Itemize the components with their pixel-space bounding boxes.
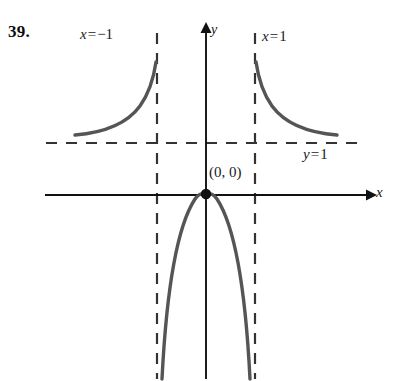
math-figure: 39. x=−1 x=1 y=1 y x (0, 0)	[0, 0, 403, 381]
vertical-asymptote-left-value: −1	[97, 26, 113, 42]
origin-point-marker	[201, 189, 211, 199]
graph-canvas	[0, 0, 403, 381]
horizontal-asymptote-operator: =	[310, 146, 320, 162]
vertical-asymptote-left-variable: x	[80, 26, 87, 42]
y-axis-label: y	[211, 22, 217, 38]
vertical-asymptote-left-label: x=−1	[80, 26, 113, 43]
x-axis-label: x	[376, 184, 383, 201]
vertical-asymptote-right-label: x=1	[262, 28, 287, 45]
horizontal-asymptote-value: 1	[320, 146, 328, 162]
vertical-asymptote-right-variable: x	[262, 28, 269, 44]
vertical-asymptote-right-value: 1	[279, 28, 287, 44]
y-axis-arrowhead	[201, 22, 212, 33]
origin-point-label: (0, 0)	[209, 164, 242, 181]
curve-right-branch	[256, 62, 337, 135]
horizontal-asymptote-variable: y	[303, 146, 310, 162]
vertical-asymptote-left-operator: =	[87, 26, 97, 42]
curve-left-branch	[75, 62, 156, 135]
vertical-asymptote-right-operator: =	[269, 28, 279, 44]
horizontal-asymptote-label: y=1	[303, 146, 328, 163]
